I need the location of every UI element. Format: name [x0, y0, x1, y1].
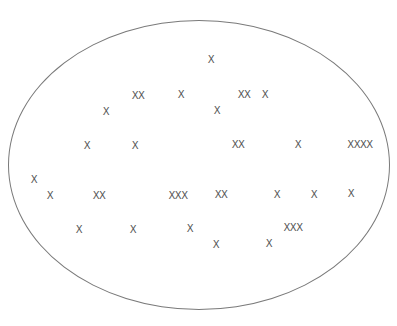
x-mark: X [31, 175, 37, 185]
x-mark: X [76, 225, 82, 235]
x-mark: X [266, 239, 272, 249]
x-mark: X [103, 107, 109, 117]
x-mark: X [187, 224, 193, 234]
x-mark: XX [238, 90, 251, 100]
x-mark: X [311, 190, 317, 200]
x-mark: XXX [168, 191, 187, 201]
x-mark: XX [132, 91, 145, 101]
x-mark: X [262, 90, 268, 100]
x-mark: X [213, 240, 219, 250]
x-mark: XXX [283, 223, 302, 233]
x-mark: X [130, 225, 136, 235]
x-mark: X [274, 190, 280, 200]
x-mark: X [178, 90, 184, 100]
x-mark: XX [93, 191, 106, 201]
x-mark: XX [232, 140, 245, 150]
x-mark: X [295, 140, 301, 150]
x-mark: XXXX [347, 140, 372, 150]
x-mark: X [208, 55, 214, 65]
ellipse-boundary [8, 20, 390, 310]
x-mark: XX [215, 190, 228, 200]
x-mark: X [214, 106, 220, 116]
diagram-canvas: XXXXXXXXXXXXXXXXXXXXXXXXXXXXXXXXXXXXXX [0, 0, 397, 326]
x-mark: X [132, 141, 138, 151]
x-mark: X [348, 189, 354, 199]
x-mark: X [84, 141, 90, 151]
x-mark: X [47, 191, 53, 201]
